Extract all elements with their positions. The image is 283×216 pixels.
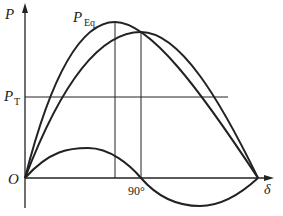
peq-subscript: Eq	[84, 17, 95, 28]
x-axis-label: δ	[264, 182, 271, 197]
peq-label: P	[72, 9, 82, 25]
pt-subscript: T	[14, 96, 20, 107]
pt-label: P	[3, 88, 13, 104]
tick-90-label: 90°	[128, 184, 145, 198]
y-axis-label: P	[4, 6, 14, 22]
y-axis-arrow-icon	[22, 3, 28, 13]
power-angle-diagram: P P Eq P T O 90° δ	[0, 0, 283, 216]
x-axis-arrow-icon	[264, 175, 274, 181]
origin-label: O	[8, 171, 19, 187]
